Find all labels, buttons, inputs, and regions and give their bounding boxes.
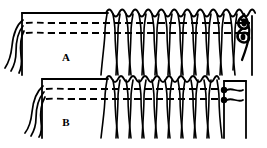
fringe-strand [155, 80, 159, 138]
fringe-strand [142, 80, 146, 138]
bead-tail-lower [227, 99, 243, 101]
panel-a-dashed-wefts [26, 23, 250, 33]
fringe-strand [155, 14, 159, 75]
panel-a-left-strands [5, 20, 24, 73]
panel-b-label: B [62, 116, 70, 128]
fringe-strand [207, 80, 211, 138]
panel-a-label: A [62, 51, 70, 63]
panel-b-scalloped-edge [106, 76, 219, 82]
figure-canvas: A [0, 0, 267, 148]
fringe-strand [220, 14, 224, 75]
fringe-knotting-figure: A [0, 0, 267, 148]
bead-tail-upper [227, 89, 243, 91]
panel-a: A [5, 10, 255, 76]
fringe-strand [233, 14, 237, 70]
knot-loop-bead-lower [241, 34, 246, 40]
panel-a-knot-loop-icon [238, 14, 250, 60]
panel-a-scalloped-edge [106, 10, 255, 17]
panel-b: B [25, 76, 246, 138]
knot-loop-bead-upper [241, 20, 246, 27]
fringe-strand [168, 14, 172, 75]
